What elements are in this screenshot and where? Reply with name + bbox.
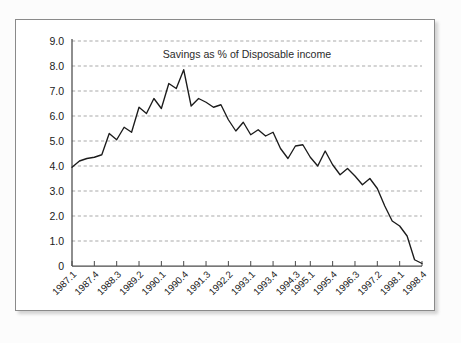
chart-title: Savings as % of Disposable income — [163, 48, 332, 60]
y-axis-tick-label: 2.0 — [49, 210, 64, 222]
x-axis-tick-label: 1988.3 — [95, 269, 124, 298]
y-axis-tick-label: 1.0 — [49, 235, 64, 247]
x-axis-tick-label: 1996.3 — [333, 269, 362, 298]
x-axis-tick-label: 1991.3 — [184, 269, 213, 298]
y-axis-tick-label: 6.0 — [49, 110, 64, 122]
y-axis-tick-label: 3.0 — [49, 185, 64, 197]
savings-rate-line-chart: 9.08.07.06.05.04.03.02.01.00 1987.11987.… — [16, 20, 434, 310]
chart-card: 9.08.07.06.05.04.03.02.01.00 1987.11987.… — [15, 19, 435, 311]
y-axis-tick-label: 0 — [58, 260, 64, 272]
x-axis-tick-label: 1989.2 — [117, 269, 146, 298]
x-axis-tick-label: 1997.2 — [355, 269, 384, 298]
y-axis-tick-label: 7.0 — [49, 85, 64, 97]
x-axis-tick-label: 1998.1 — [378, 269, 407, 298]
gridlines-group — [72, 41, 422, 241]
x-axis-tick-marks — [72, 261, 422, 266]
x-axis-tick-labels: 1987.11987.41988.31989.21990.11990.41991… — [50, 268, 429, 297]
x-axis-tick-label: 1998.4 — [400, 268, 429, 297]
x-axis-tick-label: 1987.1 — [50, 269, 79, 298]
savings-rate-line — [72, 70, 422, 264]
figure-root: 9.08.07.06.05.04.03.02.01.00 1987.11987.… — [0, 0, 461, 343]
x-axis-tick-label: 1992.2 — [206, 269, 235, 298]
x-axis-tick-label: 1990.1 — [139, 269, 168, 298]
y-axis-tick-label: 8.0 — [49, 60, 64, 72]
y-axis-tick-label: 4.0 — [49, 160, 64, 172]
y-axis-tick-label: 5.0 — [49, 135, 64, 147]
y-axis-tick-label: 9.0 — [49, 35, 64, 47]
y-axis-tick-labels: 9.08.07.06.05.04.03.02.01.00 — [49, 35, 64, 272]
x-axis-tick-label: 1993.1 — [229, 269, 258, 298]
